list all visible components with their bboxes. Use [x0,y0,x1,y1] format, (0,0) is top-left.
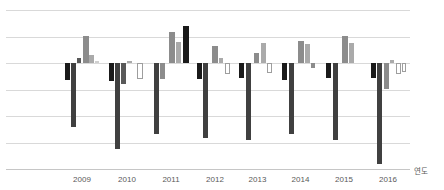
bar-2010-3-lightgray [127,61,132,63]
bar-2010-0-black [109,63,114,81]
bar-2014-1-charcoal [289,63,294,134]
bar-2010-1-charcoal [115,63,120,149]
bar-2010-2-dgray [121,63,126,84]
bar-2013-0-black [239,63,244,78]
bar-2012-3-lightgray [219,58,223,64]
bar-2013-2-gray [254,53,259,63]
bar-2013-3-lightgray [261,43,266,63]
x-tick-label-2012: 2012 [198,175,232,184]
bar-2016-0-black [371,63,376,78]
bar-2012-4-white [225,63,230,74]
bar-2016-5-white [402,63,407,72]
bar-2011-3-lightgray [176,42,181,64]
bar-2014-0-black [282,63,287,80]
bar-2012-0-black [197,63,202,79]
bar-2011-2-gray [169,32,175,64]
gridline-0 [6,10,410,11]
gridline-1 [6,37,410,38]
bar-2009-2-dgray [77,58,81,63]
bar-2014-2-gray [298,41,304,64]
gridline-3 [6,90,410,91]
bar-2015-0-black [326,63,331,78]
bar-2012-1-charcoal [203,63,208,138]
gridline-5 [6,143,410,144]
bar-2014-4-gray [311,63,315,68]
x-tick-label-2013: 2013 [241,175,275,184]
bar-2011-4-black [183,26,189,63]
plot-area: 20092010201120122013201420152016 [0,0,444,190]
bar-2009-4-lightgray [89,55,94,63]
bar-2009-0-black [65,63,70,80]
bar-2015-3-lightgray [349,43,354,63]
x-tick-label-2010: 2010 [110,175,144,184]
bar-chart: 20092010201120122013201420152016 연도 [0,0,444,190]
bar-2014-3-lightgray [305,44,310,64]
bar-2009-3-gray [83,36,89,63]
bar-2013-1-charcoal [246,63,251,140]
bar-2016-3-lightgray [390,60,394,63]
bar-2013-4-white [267,63,272,73]
x-tick-label-2015: 2015 [327,175,361,184]
bar-2015-1-charcoal [333,63,338,140]
x-tick-label-2009: 2009 [65,175,99,184]
bar-2015-2-gray [342,36,348,64]
bar-2016-1-charcoal [377,63,382,164]
x-tick-label-2016: 2016 [371,175,405,184]
x-tick-label-2014: 2014 [284,175,318,184]
x-axis-title: 연도 [414,165,428,176]
bar-2009-5-verylight [95,61,99,63]
bar-2016-4-white [396,63,401,74]
bar-2011-0-charcoal [154,63,159,134]
bar-2009-1-charcoal [71,63,76,127]
gridline-4 [6,116,410,117]
bar-2012-2-gray [212,46,218,64]
bar-2011-1-gray [160,63,165,79]
x-tick-label-2011: 2011 [154,175,188,184]
x-axis-line [6,169,410,170]
bar-2010-4-white [137,63,143,79]
bar-2016-2-gray [384,63,389,89]
